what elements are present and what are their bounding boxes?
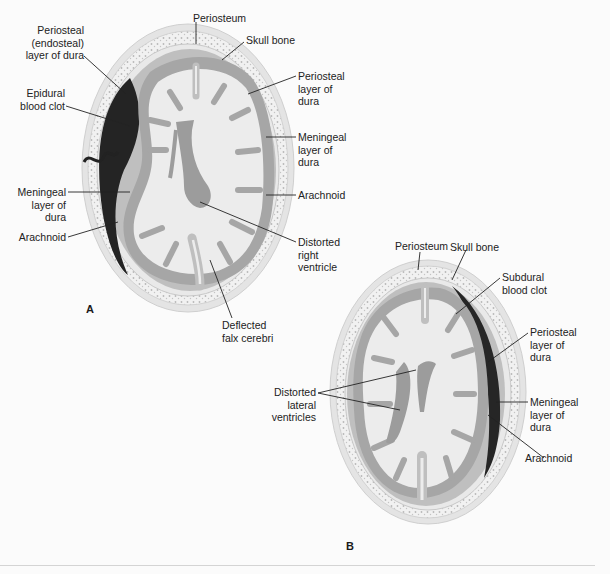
label-b-meningeal-dura: Meningeal layer of dura: [530, 396, 578, 434]
panel-label-a: A: [86, 303, 94, 315]
label-a-deflected-falx: Deflected falx cerebri: [222, 319, 273, 344]
label-a-periosteal-endosteal-dura: Periosteal (endosteal) layer of dura: [0, 24, 84, 62]
label-a-arachnoid-left: Arachnoid: [0, 231, 66, 244]
label-b-subdural-clot: Subdural blood clot: [502, 271, 547, 296]
label-b-periosteal-dura: Periosteal layer of dura: [530, 326, 577, 364]
label-a-meningeal-dura-right: Meningeal layer of dura: [298, 131, 346, 169]
label-b-arachnoid: Arachnoid: [525, 452, 572, 465]
label-a-distorted-right-ventricle: Distorted right ventricle: [298, 236, 340, 274]
label-a-meningeal-dura-left: Meningeal layer of dura: [0, 186, 66, 224]
label-a-epidural-clot: Epidural blood clot: [0, 87, 65, 112]
label-b-periosteum: Periosteum: [395, 240, 448, 253]
label-a-periosteum: Periosteum: [193, 12, 246, 25]
label-a-periosteal-dura-right: Periosteal layer of dura: [298, 70, 345, 108]
divider-rule: [0, 565, 595, 566]
label-a-skull-bone: Skull bone: [246, 34, 295, 47]
panel-label-b: B: [346, 540, 354, 552]
label-b-distorted-lateral-ventricles: Distorted lateral ventricles: [230, 386, 316, 424]
panel-a-skull-diagram: [82, 24, 294, 312]
label-a-arachnoid-right: Arachnoid: [298, 189, 345, 202]
panel-b-skull-diagram: [330, 260, 526, 524]
label-b-skull-bone: Skull bone: [450, 241, 499, 254]
